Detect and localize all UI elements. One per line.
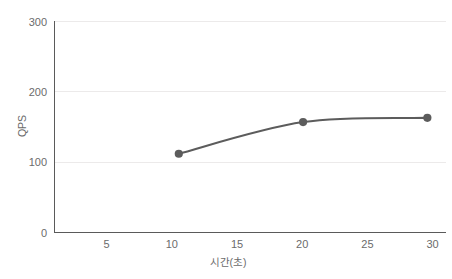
x-tick-label-10: 10 bbox=[166, 238, 178, 250]
x-tick-label-15: 15 bbox=[231, 238, 243, 250]
data-point-10 bbox=[175, 150, 183, 158]
line-chart: 300 200 100 0 5 10 15 20 25 30 QPS 시간(초) bbox=[0, 0, 452, 279]
y-tick-label-200: 200 bbox=[29, 86, 47, 98]
data-point-20 bbox=[299, 118, 307, 126]
y-axis-title: QPS bbox=[16, 115, 28, 137]
data-point-30 bbox=[423, 114, 431, 122]
chart-canvas: 300 200 100 0 5 10 15 20 25 30 QPS 시간(초) bbox=[0, 0, 452, 279]
x-tick-label-25: 25 bbox=[361, 238, 373, 250]
y-tick-label-100: 100 bbox=[29, 156, 47, 168]
y-tick-label-300: 300 bbox=[29, 16, 47, 28]
x-axis-title: 시간(초) bbox=[210, 256, 247, 268]
y-tick-label-0: 0 bbox=[41, 227, 47, 239]
x-tick-label-30: 30 bbox=[426, 238, 438, 250]
x-tick-label-5: 5 bbox=[104, 238, 110, 250]
x-tick-label-20: 20 bbox=[296, 238, 308, 250]
